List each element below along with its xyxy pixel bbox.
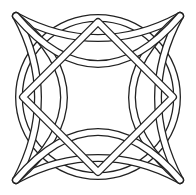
celtic-knot-drawing [0,0,196,195]
celtic-knot-image [0,0,196,195]
